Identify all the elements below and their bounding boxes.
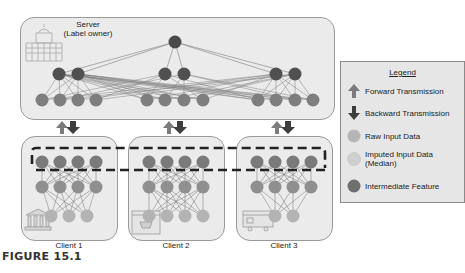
backward-arrow-icon: [66, 121, 80, 134]
legend-label: Raw Input Data: [365, 132, 420, 141]
client-top-layer: [36, 156, 318, 169]
figure-caption: FIGURE 15.1: [2, 250, 82, 263]
legend-item-forward: Forward Transmission: [347, 84, 444, 98]
imputed-input-circle-icon: [347, 152, 361, 166]
client-3-label: Client 3: [259, 241, 309, 250]
raw-input-circle-icon: [347, 129, 361, 143]
up-arrow-icon: [347, 84, 361, 98]
client-2-arrows: [163, 121, 187, 134]
legend-item-raw: Raw Input Data: [347, 129, 420, 143]
backward-arrow-icon: [281, 121, 295, 134]
forward-arrow-icon: [56, 121, 68, 134]
legend-label: Intermediate Feature: [365, 182, 439, 191]
legend-item-backward: Backward Transmission: [347, 106, 449, 120]
forward-arrow-icon: [163, 121, 175, 134]
legend-item-intermediate: Intermediate Feature: [347, 179, 439, 193]
legend-label: Backward Transmission: [365, 109, 449, 118]
forward-arrow-icon: [271, 121, 283, 134]
legend-label-line1: Imputed Input Data: [365, 150, 433, 159]
legend-title: Legend: [341, 68, 464, 77]
client-mid-layer: [36, 181, 318, 194]
truck-icon: [243, 211, 273, 231]
legend-label: Imputed Input Data (Median): [365, 150, 433, 168]
client-3-arrows: [271, 121, 295, 134]
legend-label: Forward Transmission: [365, 87, 444, 96]
client-2-label: Client 2: [151, 241, 201, 250]
legend-panel: Legend Forward Transmission Backward Tra…: [340, 61, 465, 203]
client-1-label: Client 1: [44, 241, 94, 250]
legend-label-line2: (Median): [365, 159, 397, 168]
client-1-arrows: [56, 121, 80, 134]
server-building-icon: [26, 24, 62, 61]
down-arrow-icon: [347, 106, 361, 120]
intermediate-feature-circle-icon: [347, 179, 361, 193]
legend-item-imputed: Imputed Input Data (Median): [347, 150, 433, 168]
output-node: [169, 36, 182, 49]
backward-arrow-icon: [173, 121, 187, 134]
